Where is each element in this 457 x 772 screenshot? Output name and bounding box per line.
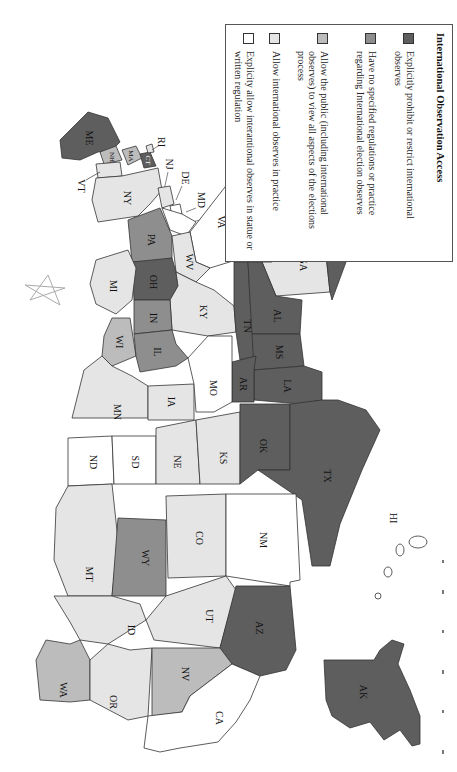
label-DE: DE: [180, 171, 191, 184]
state-RI[interactable]: [146, 144, 154, 153]
label-ID: ID: [126, 625, 137, 636]
legend-swatch-5: [243, 33, 254, 44]
label-NY: NY: [122, 191, 133, 205]
state-KS[interactable]: [196, 412, 240, 484]
label-MI: MI: [108, 280, 119, 292]
label-WV: WV: [184, 254, 195, 271]
legend: International Observation Access Explici…: [225, 24, 453, 262]
legend-label-4: Allow international observes in practice: [271, 51, 283, 251]
label-AK: AK: [358, 685, 369, 700]
label-PA: PA: [146, 234, 157, 247]
label-IL: IL: [152, 347, 163, 356]
label-MT: MT: [84, 567, 95, 582]
label-VT: VT: [76, 179, 87, 192]
label-KS: KS: [218, 452, 229, 465]
label-MO: MO: [208, 380, 219, 396]
label-OK: OK: [258, 439, 269, 454]
state-WY[interactable]: [112, 518, 166, 596]
label-MN: MN: [112, 404, 123, 420]
label-TX: TX: [322, 469, 333, 483]
label-LA: LA: [282, 379, 293, 393]
state-AK[interactable]: [324, 640, 420, 746]
legend-swatch-3: [317, 33, 328, 44]
label-UT: UT: [204, 609, 215, 622]
legend-swatch-4: [269, 33, 280, 44]
label-OH: OH: [148, 275, 159, 289]
state-ID[interactable]: [54, 596, 146, 644]
state-NE[interactable]: [156, 420, 200, 484]
label-WA: WA: [58, 682, 69, 698]
legend-title: International Observation Access: [434, 33, 446, 253]
label-WI: WI: [114, 336, 125, 349]
star-doodle-icon: [25, 275, 65, 305]
figure-caption-faint: [442, 520, 448, 770]
state-MN[interactable]: [72, 356, 148, 418]
label-CT: CT: [144, 156, 152, 166]
label-NV: NV: [180, 667, 191, 682]
label-AL: AL: [272, 309, 283, 322]
label-NJ: NJ: [164, 158, 175, 169]
label-NE: NE: [172, 455, 183, 468]
label-HI: HI: [388, 513, 399, 524]
legend-swatch-2: [365, 33, 376, 44]
state-MO[interactable]: [188, 336, 232, 412]
legend-label-5: Explicity allow interantional observes i…: [233, 51, 256, 251]
legend-label-1: Explicitly prohibit or restrict internat…: [393, 51, 416, 251]
label-MD: MD: [196, 192, 207, 208]
label-IN: IN: [148, 313, 159, 324]
state-VT[interactable]: [96, 162, 122, 178]
label-NM: NM: [258, 532, 269, 548]
legend-label-2: Have no specified regulations or practic…: [355, 51, 378, 251]
label-CO: CO: [194, 531, 205, 545]
label-KY: KY: [198, 305, 209, 319]
label-AZ: AZ: [254, 621, 265, 634]
label-RI: RI: [156, 137, 167, 147]
state-OR[interactable]: [90, 644, 152, 720]
label-CA: CA: [214, 711, 225, 726]
legend-swatch-1: [403, 33, 414, 44]
label-WY: WY: [140, 550, 151, 567]
label-NH: NH: [108, 152, 116, 162]
label-AR: AR: [238, 377, 249, 391]
label-MA: MA: [127, 150, 135, 161]
label-SD: SD: [130, 456, 141, 469]
label-OR: OR: [108, 695, 119, 709]
label-MS: MS: [274, 345, 285, 359]
legend-label-3: Allow the public (including internationa…: [296, 51, 331, 251]
label-IA: IA: [166, 397, 177, 408]
state-HI[interactable]: [375, 536, 427, 599]
label-ND: ND: [88, 455, 99, 469]
label-ME: ME: [84, 131, 95, 146]
state-NJ[interactable]: [158, 186, 174, 208]
